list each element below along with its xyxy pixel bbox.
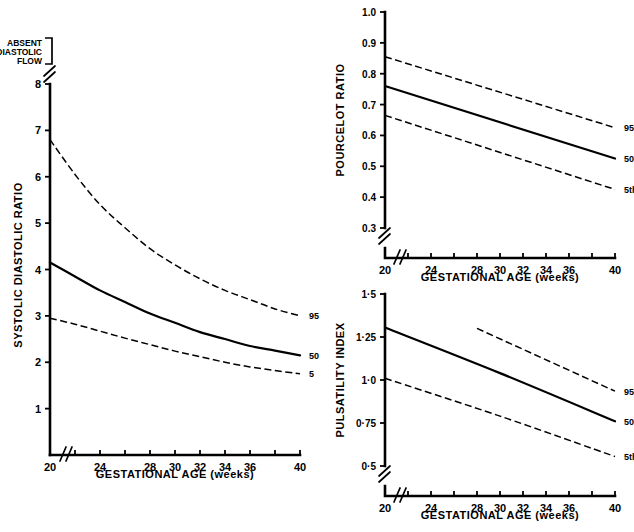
y-tick-label: 7 bbox=[35, 124, 41, 136]
y-axis-title: SYSTOLIC DIASTOLIC RATIO bbox=[12, 182, 24, 347]
y-tick-label: 0.5 bbox=[362, 161, 376, 172]
y-tick-label: 0.4 bbox=[362, 192, 376, 203]
series-label-50th: 50th bbox=[624, 417, 634, 427]
x-tick-label: 40 bbox=[294, 461, 306, 473]
x-axis-title: GESTATIONAL AGE (weeks) bbox=[421, 509, 579, 521]
sd-tick-group: 123456782024283032343640 bbox=[35, 78, 306, 473]
series-label-5th: 5th bbox=[624, 185, 634, 195]
y-tick-label: 1.0 bbox=[362, 7, 376, 18]
series-curve-95 bbox=[50, 140, 300, 316]
y-tick-label: 3 bbox=[35, 310, 41, 322]
y-tick-label: 0·5 bbox=[362, 461, 377, 472]
x-tick-label: 20 bbox=[379, 264, 391, 276]
y-tick-label: 5 bbox=[35, 217, 41, 229]
series-curve-5th bbox=[385, 378, 615, 456]
y-axis-title: PULSATILITY INDEX bbox=[334, 322, 346, 437]
y-tick-label: 0.6 bbox=[362, 130, 376, 141]
y-tick-label: 6 bbox=[35, 171, 41, 183]
chart-pulsatility-index: 0·50·751·01·251·52024283032343640 95th50… bbox=[330, 280, 634, 532]
pourcelot-ratio-svg: 0.30.40.50.60.70.80.91.02024283032343640… bbox=[330, 0, 634, 290]
chart-systolic-diastolic-ratio: ABSENT DIASTOLIC FLOW 123456782024283032… bbox=[0, 0, 330, 500]
series-label-5th: 5th bbox=[624, 452, 634, 462]
series-curve-5th bbox=[385, 115, 615, 189]
series-label-95th: 95th bbox=[624, 123, 634, 133]
y-tick-label: 0.7 bbox=[362, 100, 376, 111]
pulsatility-index-svg: 0·50·751·01·251·52024283032343640 95th50… bbox=[330, 280, 634, 532]
y-tick-label: 4 bbox=[35, 264, 42, 276]
sd-curve-group bbox=[50, 140, 300, 374]
absent-flow-bracket-icon bbox=[45, 38, 52, 64]
absent-diastolic-flow-annotation: ABSENT DIASTOLIC FLOW bbox=[0, 38, 52, 66]
series-label-95th: 95th bbox=[624, 387, 634, 397]
systolic-diastolic-ratio-svg: ABSENT DIASTOLIC FLOW 123456782024283032… bbox=[0, 0, 330, 500]
pr-curve-label-group: 95th50th5th bbox=[624, 123, 634, 195]
x-tick-label: 40 bbox=[609, 264, 621, 276]
pi-tick-group: 0·50·751·01·251·52024283032343640 bbox=[356, 289, 621, 514]
y-tick-label: 0·75 bbox=[356, 418, 376, 429]
x-tick-label: 20 bbox=[44, 461, 56, 473]
series-curve-50th bbox=[385, 86, 615, 159]
series-curve-95th bbox=[385, 57, 615, 128]
y-tick-label: 1·0 bbox=[362, 375, 377, 386]
series-label-50: 50 bbox=[309, 351, 319, 361]
series-label-5: 5 bbox=[309, 369, 314, 379]
y-tick-label: 2 bbox=[35, 356, 41, 368]
absent-flow-line-3: FLOW bbox=[17, 56, 43, 66]
pr-curve-group bbox=[385, 57, 615, 190]
pr-tick-group: 0.30.40.50.60.70.80.91.02024283032343640 bbox=[362, 7, 621, 276]
series-curve-50th bbox=[385, 328, 615, 422]
x-tick-label: 20 bbox=[379, 502, 391, 514]
pi-curve-group bbox=[385, 328, 615, 457]
y-axis-title: POURCELOT RATIO bbox=[334, 63, 346, 176]
sd-curve-label-group: 95505 bbox=[309, 311, 319, 379]
y-tick-label: 0.8 bbox=[362, 69, 376, 80]
x-tick-label: 40 bbox=[609, 502, 621, 514]
series-label-50th: 50th bbox=[624, 154, 634, 164]
y-tick-label: 1·5 bbox=[362, 289, 377, 300]
series-label-95: 95 bbox=[309, 311, 319, 321]
y-tick-label: 0.3 bbox=[362, 223, 376, 234]
y-tick-label: 1 bbox=[35, 403, 41, 415]
y-tick-label: 0.9 bbox=[362, 38, 376, 49]
series-curve-50 bbox=[50, 263, 300, 356]
x-axis-title: GESTATIONAL AGE (weeks) bbox=[96, 468, 254, 480]
series-curve-95th bbox=[477, 328, 615, 391]
series-curve-5 bbox=[50, 318, 300, 374]
y-tick-label: 1·25 bbox=[356, 332, 376, 343]
pi-curve-label-group: 95th50th5th bbox=[624, 387, 634, 462]
chart-pourcelot-ratio: 0.30.40.50.60.70.80.91.02024283032343640… bbox=[330, 0, 634, 290]
y-tick-label: 8 bbox=[35, 78, 41, 90]
